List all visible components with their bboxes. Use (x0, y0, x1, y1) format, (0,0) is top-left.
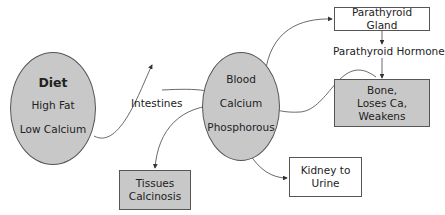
tissues-line-2: Calcinosis (129, 190, 181, 203)
parathyroid-gland-box: Parathyroid Gland (334, 7, 430, 31)
parathyroid-gland-label: Parathyroid Gland (335, 6, 429, 32)
kidney-line-1: Kidney to (301, 164, 351, 177)
tissues-box: Tissues Calcinosis (119, 170, 191, 210)
diet-high-fat: High Fat (31, 99, 74, 111)
parathyroid-hormone-label: Parathyroid Hormone (333, 45, 445, 57)
diet-low-calcium: Low Calcium (20, 123, 86, 135)
calcium-label: Calcium (220, 97, 262, 109)
tissues-line-1: Tissues (136, 177, 175, 190)
diet-title: Diet (38, 75, 67, 90)
bone-line-3: Weakens (359, 110, 406, 123)
kidney-line-2: Urine (311, 177, 339, 190)
intestines-label: Intestines (131, 97, 182, 109)
blood-label: Blood (226, 73, 256, 85)
kidney-box: Kidney to Urine (289, 157, 362, 197)
bone-line-2: Loses Ca, (357, 97, 407, 110)
bone-line-1: Bone, (367, 84, 397, 97)
phosphorous-label: Phosphorous (207, 121, 274, 133)
bone-box: Bone, Loses Ca, Weakens (334, 79, 430, 127)
